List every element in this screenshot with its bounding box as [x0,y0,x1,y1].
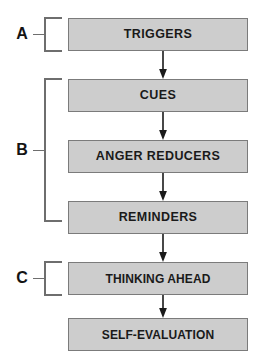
node-triggers[interactable]: TRIGGERS [68,18,248,51]
node-thinking-ahead-label: THINKING AHEAD [106,273,211,285]
node-anger-reducers[interactable]: ANGER REDUCERS [68,140,248,173]
node-self-evaluation-label: SELF-EVALUATION [102,329,214,341]
node-cues[interactable]: CUES [68,79,248,112]
arrow-reminders-to-thinking-ahead [157,234,169,262]
flowchart-diagram: A B C TRIGGERS CUES ANGER REDUCERS [0,0,264,358]
group-bracket-c [44,261,62,296]
group-bracket-a [44,17,62,52]
node-cues-label: CUES [140,89,176,102]
arrow-thinking-ahead-to-self-evaluation [157,295,169,318]
node-reminders[interactable]: REMINDERS [68,201,248,234]
arrow-triggers-to-cues [157,51,169,79]
node-thinking-ahead[interactable]: THINKING AHEAD [68,262,248,295]
node-reminders-label: REMINDERS [119,211,198,224]
node-triggers-label: TRIGGERS [124,28,192,41]
group-label-c: C [12,270,32,286]
node-self-evaluation[interactable]: SELF-EVALUATION [68,318,248,351]
group-label-b: B [12,142,32,158]
arrow-cues-to-anger-reducers [157,112,169,140]
group-bracket-b [44,78,62,222]
group-label-a: A [12,26,32,42]
arrow-anger-reducers-to-reminders [157,173,169,201]
node-anger-reducers-label: ANGER REDUCERS [96,150,220,163]
